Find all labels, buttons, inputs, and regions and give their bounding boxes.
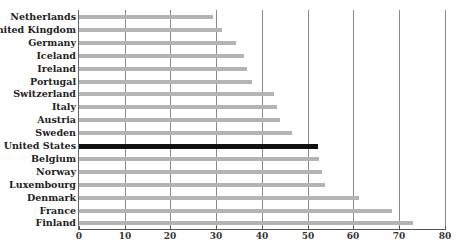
x-tick-mark — [79, 226, 80, 230]
category-label: Italy — [52, 102, 76, 112]
x-tick-label: 70 — [393, 231, 406, 241]
x-tick-mark — [216, 226, 217, 230]
bar-highlighted — [79, 144, 318, 149]
category-label: Portugal — [30, 77, 76, 87]
category-label: Luxembourg — [9, 180, 76, 190]
category-label: United States — [4, 141, 76, 151]
bar — [79, 80, 252, 84]
bar — [79, 209, 392, 213]
x-tick-mark — [308, 226, 309, 230]
bar — [79, 92, 274, 96]
category-label: France — [40, 206, 76, 216]
x-tick-mark — [125, 226, 126, 230]
x-tick-label: 40 — [256, 231, 269, 241]
category-label: Iceland — [36, 51, 76, 61]
bar — [79, 15, 213, 19]
x-tick-label: 30 — [210, 231, 223, 241]
category-label: Norway — [36, 167, 76, 177]
bar — [79, 67, 247, 71]
gridline — [399, 10, 400, 229]
x-tick-label: 50 — [302, 231, 315, 241]
category-label: Austria — [37, 115, 76, 125]
bar — [79, 28, 222, 32]
category-label: Finland — [35, 218, 76, 228]
category-label: Switzerland — [13, 89, 76, 99]
x-tick-mark — [262, 226, 263, 230]
gridline — [445, 10, 446, 229]
category-label: United Kingdom — [0, 25, 76, 35]
category-label: Germany — [28, 38, 76, 48]
category-label: Belgium — [31, 154, 76, 164]
bar — [79, 157, 319, 161]
bar — [79, 221, 413, 225]
x-tick-mark — [353, 226, 354, 230]
bar — [79, 196, 359, 200]
bar — [79, 105, 277, 109]
bar — [79, 118, 280, 122]
category-label: Netherlands — [10, 12, 76, 22]
bar — [79, 170, 322, 174]
x-tick-label: 0 — [76, 231, 82, 241]
x-tick-label: 60 — [347, 231, 360, 241]
x-tick-mark — [399, 226, 400, 230]
bar — [79, 54, 244, 58]
x-tick-mark — [170, 226, 171, 230]
bar — [79, 41, 236, 45]
bar — [79, 131, 292, 135]
x-tick-label: 20 — [164, 231, 177, 241]
category-label: Denmark — [27, 193, 76, 203]
x-tick-label: 10 — [119, 231, 132, 241]
category-label: Ireland — [37, 64, 76, 74]
category-label: Sweden — [35, 128, 76, 138]
bar — [79, 183, 325, 187]
horizontal-bar-chart: NetherlandsUnited KingdomGermanyIcelandI… — [0, 0, 457, 246]
x-tick-label: 80 — [439, 231, 452, 241]
x-tick-mark — [445, 226, 446, 230]
